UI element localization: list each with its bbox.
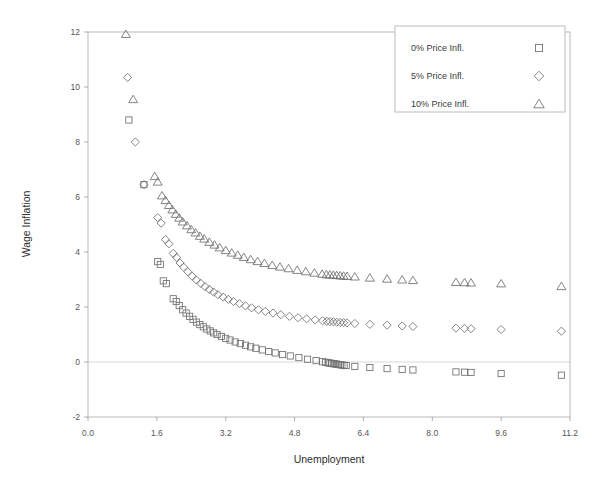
y-tick-label: 12 xyxy=(71,27,81,37)
legend-label: 0% Price Infl. xyxy=(411,43,464,53)
y-axis-title: Wage Inflation xyxy=(20,190,32,257)
legend-label: 10% Price Infl. xyxy=(411,99,469,109)
x-tick-label: 6.4 xyxy=(358,428,370,438)
y-tick-label: 10 xyxy=(71,82,81,92)
x-tick-label: 8.0 xyxy=(426,428,438,438)
y-tick-label: 2 xyxy=(75,302,80,312)
y-tick-label: 8 xyxy=(75,137,80,147)
x-tick-label: 3.2 xyxy=(220,428,232,438)
x-axis-title: Unemployment xyxy=(294,453,365,465)
y-tick-label: 6 xyxy=(75,192,80,202)
chart-legend: 0% Price Infl.5% Price Infl.10% Price In… xyxy=(395,26,565,112)
scatter-plot-svg: 0.01.63.24.86.48.09.611.2 -2024681012 0%… xyxy=(0,0,603,486)
y-tick-label: 0 xyxy=(75,357,80,367)
y-tick-label: 4 xyxy=(75,247,80,257)
x-tick-label: 1.6 xyxy=(151,428,163,438)
x-tick-label: 4.8 xyxy=(289,428,301,438)
x-tick-label: 0.0 xyxy=(82,428,94,438)
chart-figure: 0.01.63.24.86.48.09.611.2 -2024681012 0%… xyxy=(0,0,603,486)
y-tick-label: -2 xyxy=(72,412,80,422)
x-tick-label: 9.6 xyxy=(495,428,507,438)
legend-label: 5% Price Infl. xyxy=(411,71,464,81)
x-tick-label: 11.2 xyxy=(562,428,578,438)
